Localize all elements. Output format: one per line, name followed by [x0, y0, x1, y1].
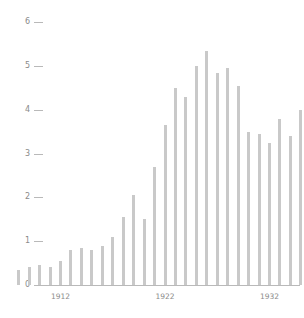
bar [59, 261, 62, 285]
y-axis-tick-mark [34, 197, 43, 198]
x-axis-baseline [34, 285, 300, 286]
bar [237, 86, 240, 285]
bar [143, 219, 146, 285]
y-axis-tick-mark [34, 66, 43, 67]
bar [80, 248, 83, 285]
y-axis-tick-label: 1 [12, 237, 30, 245]
y-axis-tick-label: 2 [12, 193, 30, 201]
bar [268, 143, 271, 285]
bar [101, 246, 104, 285]
bar [164, 125, 167, 285]
y-axis-tick-mark [34, 22, 43, 23]
plot-area: 0123456191219221932 [0, 0, 304, 318]
bar [184, 97, 187, 285]
bar [226, 68, 229, 285]
bar [111, 237, 114, 285]
bar [247, 132, 250, 285]
y-axis-tick-label: 6 [12, 18, 30, 26]
bar-chart: 0123456191219221932 [0, 0, 304, 318]
bar [289, 136, 292, 285]
bar [38, 265, 41, 285]
bar [205, 51, 208, 285]
bar [195, 66, 198, 285]
x-axis-tick-label: 1912 [46, 293, 76, 301]
bar [278, 119, 281, 285]
bar [90, 250, 93, 285]
y-axis-tick-mark [34, 110, 43, 111]
y-axis-tick-label: 4 [12, 106, 30, 114]
bar [28, 267, 31, 285]
bar [299, 110, 302, 285]
y-axis-tick-mark [34, 241, 43, 242]
bar [216, 73, 219, 285]
x-axis-tick-label: 1932 [255, 293, 285, 301]
bar [69, 250, 72, 285]
bar [17, 270, 20, 285]
bar [174, 88, 177, 285]
x-axis-tick-label: 1922 [150, 293, 180, 301]
bar [49, 267, 52, 285]
bar [258, 134, 261, 285]
y-axis-tick-label: 3 [12, 150, 30, 158]
bar [132, 195, 135, 285]
bar [122, 217, 125, 285]
y-axis-tick-label: 5 [12, 62, 30, 70]
y-axis-tick-mark [34, 154, 43, 155]
bar [153, 167, 156, 285]
